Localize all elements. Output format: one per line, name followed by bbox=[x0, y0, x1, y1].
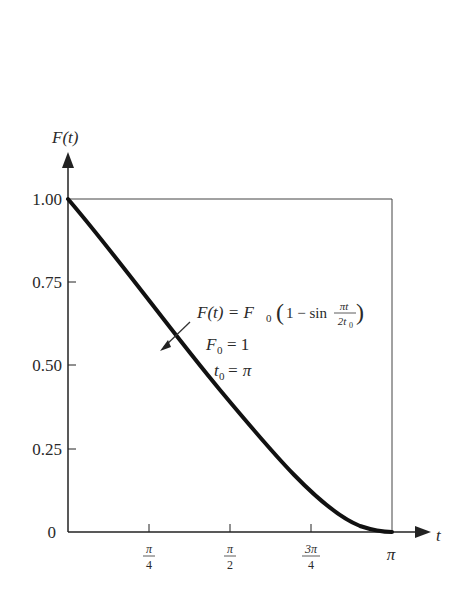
y-tick-label-0.50: 0.50 bbox=[32, 356, 62, 375]
svg-text:0: 0 bbox=[349, 321, 353, 330]
x-axis-label: t bbox=[436, 526, 442, 545]
y-tick-label-1.00: 1.00 bbox=[32, 190, 62, 209]
svg-text:= π: = π bbox=[227, 361, 252, 380]
svg-text:π: π bbox=[227, 542, 234, 556]
svg-text:4: 4 bbox=[308, 558, 314, 572]
x-tick-label-3pi-over-4: 3π 4 bbox=[302, 542, 320, 572]
y-axis-arrow-icon bbox=[62, 152, 74, 168]
svg-text:0: 0 bbox=[219, 370, 225, 382]
param-f0: F 0 = 1 bbox=[205, 335, 249, 356]
svg-text:2t: 2t bbox=[338, 315, 348, 327]
svg-text:= 1: = 1 bbox=[227, 335, 249, 354]
y-ticks bbox=[68, 282, 76, 449]
svg-text:1 − sin: 1 − sin bbox=[286, 305, 327, 321]
x-tick-label-pi-over-2: π 2 bbox=[224, 542, 236, 572]
svg-text:F: F bbox=[205, 335, 217, 354]
svg-text:0: 0 bbox=[217, 344, 223, 356]
svg-text:3π: 3π bbox=[304, 542, 318, 556]
svg-text:πt: πt bbox=[340, 300, 350, 312]
svg-text:0: 0 bbox=[266, 312, 272, 324]
x-ticks bbox=[149, 524, 311, 532]
x-tick-label-pi-over-4: π 4 bbox=[143, 542, 155, 572]
chart-canvas: F(t) t 1.00 0.75 0.50 0.25 0 π 4 π 2 3π … bbox=[0, 0, 463, 599]
y-axis-label: F(t) bbox=[51, 128, 79, 147]
svg-text:2: 2 bbox=[227, 558, 233, 572]
y-tick-label-0.25: 0.25 bbox=[32, 440, 62, 459]
equation-annotation: F(t) = F 0 ( 1 − sin πt 2t 0 ) bbox=[196, 299, 364, 330]
svg-text:4: 4 bbox=[146, 558, 152, 572]
svg-text:): ) bbox=[356, 299, 364, 325]
y-tick-label-0: 0 bbox=[48, 523, 57, 542]
svg-text:π: π bbox=[146, 542, 153, 556]
svg-text:(: ( bbox=[276, 299, 284, 325]
svg-text:F(t) = F: F(t) = F bbox=[196, 303, 254, 322]
x-axis-arrow-icon bbox=[415, 526, 431, 538]
param-t0: t 0 = π bbox=[214, 361, 252, 382]
y-tick-label-0.75: 0.75 bbox=[32, 273, 62, 292]
x-tick-label-pi: π bbox=[387, 545, 396, 564]
